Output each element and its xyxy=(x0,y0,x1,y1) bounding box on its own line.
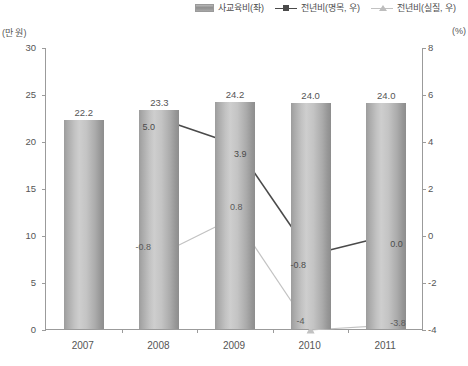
x-axis-label-2007: 2007 xyxy=(53,340,113,351)
bar-value-label-2010: 24.0 xyxy=(288,91,334,101)
y-axis-label-right: -4 xyxy=(428,325,448,334)
y-axis-tick-left xyxy=(42,189,46,190)
x-axis-tick xyxy=(122,329,123,333)
y-axis-label-left: 20 xyxy=(12,137,36,146)
x-axis-label-2009: 2009 xyxy=(204,340,264,351)
y-axis-label-left: 10 xyxy=(12,231,36,240)
y-axis-label-right: 6 xyxy=(428,90,448,99)
y-axis-label-right: 8 xyxy=(428,43,448,52)
y-axis-label-left: 15 xyxy=(12,184,36,193)
x-axis-label-2011: 2011 xyxy=(355,340,415,351)
nominal-point-label-2010: -0.8 xyxy=(291,261,307,270)
y-axis-tick-right xyxy=(422,189,426,190)
plot-area: 051015202530-4-20246822.223.324.224.024.… xyxy=(45,48,423,330)
bar-value-label-2007: 22.2 xyxy=(61,108,107,118)
legend-label-nominal: 전년비(명목, 우) xyxy=(301,3,360,13)
legend-label-expenditure: 사교육비(좌) xyxy=(218,3,264,13)
chart-container: 사교육비(좌) 전년비(명목, 우) 전년비(실질, 우) (만 원) (%) … xyxy=(0,0,468,366)
y-axis-tick-left xyxy=(42,48,46,49)
y-axis-label-right: 0 xyxy=(428,231,448,240)
y-axis-tick-left xyxy=(42,142,46,143)
x-axis-tick xyxy=(273,329,274,333)
y-axis-tick-right xyxy=(422,142,426,143)
x-axis-tick xyxy=(197,329,198,333)
real-point-label-2008: -0.8 xyxy=(135,243,151,252)
real-point-label-2011: -3.8 xyxy=(390,319,406,328)
legend-item-real: 전년비(실질, 우) xyxy=(371,1,456,15)
chart-legend: 사교육비(좌) 전년비(명목, 우) 전년비(실질, 우) xyxy=(195,1,468,15)
y-axis-label-right: -2 xyxy=(428,278,448,287)
y-axis-label-right: 2 xyxy=(428,184,448,193)
y-axis-tick-right xyxy=(422,236,426,237)
y-axis-tick-right xyxy=(422,330,426,331)
bar-2008 xyxy=(139,110,179,329)
x-axis-label-2008: 2008 xyxy=(128,340,188,351)
y-axis-tick-right xyxy=(422,95,426,96)
nominal-point-label-2009: 3.9 xyxy=(234,150,247,159)
legend-item-expenditure: 사교육비(좌) xyxy=(195,1,264,15)
y-axis-label-left: 25 xyxy=(12,90,36,99)
line-square-marker-icon xyxy=(275,4,297,13)
real-point-label-2010: -4 xyxy=(297,317,305,326)
y-axis-label-left: 0 xyxy=(12,325,36,334)
line-triangle-marker-icon xyxy=(371,4,393,13)
bar-2011 xyxy=(366,103,406,329)
y-axis-label-left: 30 xyxy=(12,43,36,52)
left-axis-unit: (만 원) xyxy=(2,26,27,39)
real-point-label-2009: 0.8 xyxy=(230,203,243,212)
bar-value-label-2011: 24.0 xyxy=(363,91,409,101)
bar-swatch-icon xyxy=(195,4,214,12)
legend-label-real: 전년비(실질, 우) xyxy=(397,3,456,13)
nominal-point-label-2011: 0.0 xyxy=(390,240,403,249)
y-axis-label-right: 4 xyxy=(428,137,448,146)
y-axis-tick-left xyxy=(42,236,46,237)
y-axis-tick-left xyxy=(42,95,46,96)
bar-2009 xyxy=(215,102,255,329)
bar-value-label-2009: 24.2 xyxy=(212,90,258,100)
x-axis-tick xyxy=(348,329,349,333)
y-axis-label-left: 5 xyxy=(12,278,36,287)
y-axis-tick-right xyxy=(422,283,426,284)
bar-value-label-2008: 23.3 xyxy=(136,98,182,108)
y-axis-tick-right xyxy=(422,48,426,49)
bar-2007 xyxy=(64,120,104,329)
legend-item-nominal: 전년비(명목, 우) xyxy=(275,1,360,15)
right-axis-unit: (%) xyxy=(452,26,466,36)
y-axis-tick-left xyxy=(42,283,46,284)
y-axis-tick-left xyxy=(42,330,46,331)
x-axis-label-2010: 2010 xyxy=(280,340,340,351)
nominal-point-label-2008: 5.0 xyxy=(142,123,155,132)
bar-2010 xyxy=(291,103,331,329)
